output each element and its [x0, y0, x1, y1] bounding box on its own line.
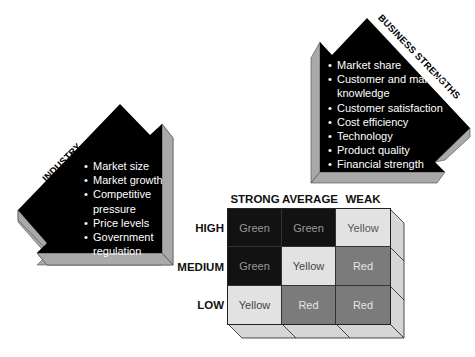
industry-factor: Competitive pressure	[84, 187, 164, 215]
matrix-cell-medium-weak: Red	[336, 247, 390, 286]
column-header-weak: WEAK	[336, 193, 390, 205]
business-strength: Financial strength	[328, 157, 448, 171]
matrix-cell-high-strong: Green	[228, 209, 282, 247]
business-strength: Technology	[328, 129, 448, 143]
business-strength: Customer satisfaction	[328, 101, 448, 115]
column-header-average: AVERAGE	[282, 193, 336, 205]
matrix-bottom-face	[228, 324, 404, 338]
row-header-high: HIGH	[172, 222, 224, 234]
matrix-cell-high-weak: Yellow	[336, 209, 390, 247]
industry-factor: Government regulation	[84, 230, 164, 258]
matrix-cell-low-average: Red	[282, 286, 336, 324]
business-strength: Customer and market knowledge	[328, 72, 448, 100]
business-strength: Product quality	[328, 143, 448, 157]
matrix-cell-medium-strong: Green	[228, 247, 282, 286]
business-arrow-side	[311, 42, 320, 183]
industry-factor: Market growth	[84, 173, 164, 187]
business-strength: Market share	[328, 58, 448, 72]
matrix-cell-low-weak: Red	[336, 286, 390, 324]
matrix-cell-low-strong: Yellow	[228, 286, 282, 324]
matrix-cell-high-average: Green	[282, 209, 336, 247]
business-strength-list: Market share Customer and market knowled…	[328, 58, 448, 172]
industry-factor-list: Market size Market growth Competitive pr…	[84, 159, 164, 258]
industry-factor: Price levels	[84, 216, 164, 230]
matrix-cell-medium-average: Yellow	[282, 247, 336, 286]
business-strength: Cost efficiency	[328, 115, 448, 129]
column-header-strong: STRONG	[228, 193, 282, 205]
matrix-right-face	[390, 209, 404, 338]
row-header-medium: MEDIUM	[172, 261, 224, 273]
business-arrow-bottom	[311, 172, 445, 183]
industry-factor: Market size	[84, 159, 164, 173]
row-header-low: LOW	[172, 299, 224, 311]
